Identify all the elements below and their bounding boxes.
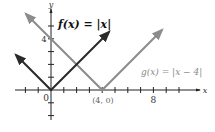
x-tick-label-8: 8 — [151, 95, 157, 105]
graph-canvas: y x 0 4 8 (4, 0) f(x) = |x| g(x) = |x − … — [0, 0, 215, 132]
origin-label: 0 — [43, 93, 49, 103]
g-function-label: g(x) = |x − 4| — [141, 67, 202, 78]
x-axis-label: x — [203, 86, 208, 95]
point-label: (4, 0) — [92, 96, 114, 105]
y-tick-label-4: 4 — [41, 35, 46, 44]
y-axis-label: y — [48, 0, 54, 9]
f-function-label: f(x) = |x| — [57, 18, 111, 31]
y-axis — [48, 9, 54, 120]
f-function-line — [16, 32, 109, 90]
